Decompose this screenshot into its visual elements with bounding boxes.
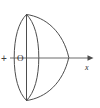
paraboloid-diagram-svg: O x + (0, 0, 100, 108)
origin-label: O (17, 53, 24, 63)
x-axis-label: x (84, 63, 89, 72)
x-axis-arrowhead (88, 55, 94, 61)
plus-mark-label: + (1, 53, 7, 64)
paraboloid-outline (27, 15, 69, 101)
ellipse-right-arc (27, 15, 39, 101)
figure-container: O x + (0, 0, 100, 108)
